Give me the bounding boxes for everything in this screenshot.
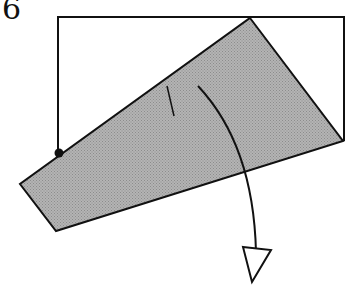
arrowhead-icon (243, 247, 271, 282)
fold-diagram (0, 0, 355, 287)
reference-dot-icon (55, 149, 64, 158)
folded-flap (20, 18, 343, 231)
